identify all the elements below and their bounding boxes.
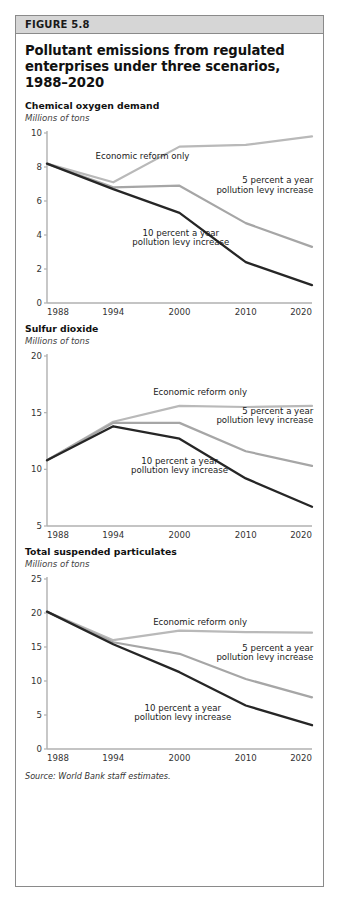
y-tick-label: 10 — [31, 128, 42, 138]
x-tick-label: 2010 — [235, 530, 257, 540]
panel-title: Sulfur dioxide — [25, 323, 314, 334]
y-tick-label: 10 — [31, 465, 42, 475]
annotation-economic-reform: Economic reform only — [153, 617, 247, 627]
panel-title: Chemical oxygen demand — [25, 100, 314, 111]
x-tick-label: 1994 — [102, 307, 124, 317]
y-tick-label: 0 — [37, 744, 42, 754]
annotation-10-percent-line2: pollution levy increase — [131, 465, 228, 475]
x-tick-label: 2020 — [290, 753, 312, 763]
x-tick-label: 2020 — [290, 307, 312, 317]
annotation-10-percent-line2: pollution levy increase — [132, 237, 229, 247]
chart-svg: 024681019881994200020102020Economic refo… — [25, 125, 316, 321]
x-tick-label: 1994 — [102, 753, 124, 763]
chart-chemical-oxygen-demand: 024681019881994200020102020Economic refo… — [25, 125, 314, 321]
y-tick-label: 5 — [37, 521, 42, 531]
y-tick-label: 8 — [37, 162, 42, 172]
x-tick-label: 1988 — [47, 530, 69, 540]
figure-title: Pollutant emissions from regulated enter… — [25, 43, 314, 91]
y-tick-label: 25 — [31, 574, 42, 584]
y-tick-label: 0 — [37, 298, 42, 308]
x-tick-label: 2010 — [235, 307, 257, 317]
annotation-economic-reform: Economic reform only — [153, 387, 247, 397]
x-tick-label: 2000 — [169, 753, 191, 763]
annotation-5-percent-line2: pollution levy increase — [216, 415, 313, 425]
y-tick-label: 5 — [37, 710, 42, 720]
figure-header-band: FIGURE 5.8 — [16, 16, 323, 34]
panel-chemical-oxygen-demand: Chemical oxygen demand Millions of tons … — [25, 100, 314, 321]
chart-svg: 510152019881994200020102020Economic refo… — [25, 348, 316, 544]
y-tick-label: 2 — [37, 264, 42, 274]
x-tick-label: 2000 — [169, 530, 191, 540]
x-tick-label: 2010 — [235, 753, 257, 763]
x-tick-label: 1988 — [47, 307, 69, 317]
y-tick-label: 20 — [31, 351, 42, 361]
chart-total-suspended-particulates: 051015202519881994200020102020Economic r… — [25, 571, 314, 767]
panel-sulfur-dioxide: Sulfur dioxide Millions of tons 51015201… — [25, 323, 314, 544]
x-tick-label: 2020 — [290, 530, 312, 540]
y-tick-label: 10 — [31, 676, 42, 686]
panel-total-suspended-particulates: Total suspended particulates Millions of… — [25, 546, 314, 767]
source-text: Source: World Bank staff estimates. — [25, 771, 171, 781]
figure-container: FIGURE 5.8 Pollutant emissions from regu… — [15, 15, 324, 887]
figure-body: Pollutant emissions from regulated enter… — [16, 34, 323, 767]
source-note: Source: World Bank staff estimates. — [16, 769, 323, 781]
panel-title: Total suspended particulates — [25, 546, 314, 557]
y-tick-label: 15 — [31, 642, 42, 652]
annotation-5-percent-line2: pollution levy increase — [216, 185, 313, 195]
chart-svg: 051015202519881994200020102020Economic r… — [25, 571, 316, 767]
annotation-economic-reform: Economic reform only — [96, 152, 190, 162]
figure-number-label: FIGURE 5.8 — [25, 19, 90, 30]
y-tick-label: 4 — [37, 230, 42, 240]
x-tick-label: 1994 — [102, 530, 124, 540]
annotation-10-percent-line2: pollution levy increase — [134, 713, 231, 723]
x-tick-label: 2000 — [169, 307, 191, 317]
y-tick-label: 15 — [31, 408, 42, 418]
annotation-5-percent-line2: pollution levy increase — [216, 653, 313, 663]
x-tick-label: 1988 — [47, 753, 69, 763]
chart-sulfur-dioxide: 510152019881994200020102020Economic refo… — [25, 348, 314, 544]
y-tick-label: 6 — [37, 196, 42, 206]
panel-unit-label: Millions of tons — [25, 336, 314, 346]
panel-unit-label: Millions of tons — [25, 113, 314, 123]
y-tick-label: 20 — [31, 608, 42, 618]
panel-unit-label: Millions of tons — [25, 559, 314, 569]
